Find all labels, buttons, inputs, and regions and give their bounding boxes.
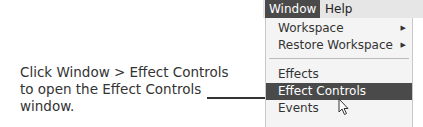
menu-item-restore-workspace[interactable]: Restore Workspace ▶ (266, 37, 412, 54)
menu-item-workspace[interactable]: Workspace ▶ (266, 20, 412, 37)
menubar-help[interactable]: Help (321, 0, 356, 18)
caption-line: to open the Effect Controls (20, 81, 260, 98)
caption-line: Click Window > Effect Controls (20, 64, 260, 81)
menu-item-label: Events (278, 100, 319, 117)
menu-item-label: Workspace (278, 20, 344, 37)
caption-line: window. (20, 98, 260, 115)
menu-item-label: Effect Controls (278, 83, 366, 100)
chevron-right-icon: ▶ (401, 37, 406, 54)
instruction-caption: Click Window > Effect Controls to open t… (20, 64, 260, 115)
menu-separator (269, 58, 409, 59)
menubar: Window Help (263, 0, 423, 18)
menu-item-label: Restore Workspace (278, 37, 393, 54)
menu-item-label: Effects (278, 66, 319, 83)
callout-leader-line (207, 97, 269, 99)
menubar-window[interactable]: Window (265, 0, 320, 18)
menu-item-effects[interactable]: Effects (266, 66, 412, 83)
chevron-right-icon: ▶ (401, 20, 406, 37)
mouse-cursor-icon (338, 98, 350, 116)
